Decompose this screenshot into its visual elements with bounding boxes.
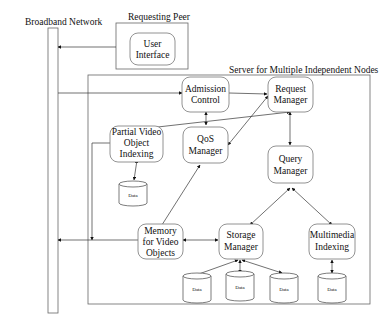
data-label: Data [128,193,138,198]
multimedia-indexing-label-2: Indexing [315,242,349,252]
data-store-storage-1: Data [183,273,211,303]
architecture-diagram: Broadband Network Requesting Peer User I… [0,0,390,329]
admission-control-label-2: Control [191,95,220,105]
admission-control-label-1: Admission [185,84,226,94]
request-manager-node: Request Manager [268,77,313,112]
admission-control-node: Admission Control [182,77,229,112]
broadband-network: Broadband Network [25,17,103,313]
request-manager-label-1: Request [275,84,306,94]
data-store-storage-3: Data [270,273,298,303]
memory-video-objects-node: Memory for Video Objects [138,224,183,259]
data-label: Data [192,287,202,292]
memory-label-1: Memory [144,226,177,236]
storage-manager-label-2: Manager [224,242,259,252]
memory-label-2: for Video [143,237,179,247]
data-label: Data [327,287,337,292]
storage-manager-node: Storage Manager [219,224,263,259]
query-manager-label-2: Manager [274,166,309,176]
partial-video-label-1: Partial Video [112,127,162,137]
multimedia-indexing-label-1: Multimedia [310,230,355,240]
request-manager-label-2: Manager [274,95,309,105]
memory-label-3: Objects [146,248,175,258]
multimedia-indexing-node: Multimedia Indexing [309,224,355,259]
user-interface-node [130,33,175,65]
user-interface-label-1: User [144,39,163,49]
data-store-partial-video: Data [119,181,147,206]
data-store-multimedia: Data [318,273,346,303]
data-label: Data [279,287,289,292]
partial-video-label-2: Object [124,138,150,148]
qos-manager-label-2: Manager [189,146,224,156]
partial-video-label-3: Indexing [120,149,154,159]
user-interface-label-2: Interface [136,50,170,60]
qos-manager-node: QoS Manager [183,127,228,163]
qos-manager-label-1: QoS [197,134,214,144]
server-label: Server for Multiple Independent Nodes [229,65,379,75]
storage-manager-label-1: Storage [226,230,255,240]
requesting-peer: Requesting Peer User Interface [116,12,191,69]
broadband-network-label: Broadband Network [25,17,103,27]
data-label: Data [235,285,245,290]
query-manager-node: Query Manager [268,146,313,183]
requesting-peer-label: Requesting Peer [128,12,191,22]
data-store-storage-2: Data [226,271,254,301]
query-manager-label-1: Query [279,154,303,164]
partial-video-indexing-node: Partial Video Object Indexing [110,126,163,162]
